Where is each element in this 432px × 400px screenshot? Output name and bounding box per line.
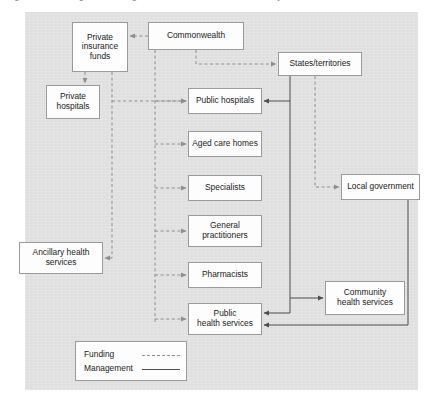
node-label: Specialists <box>202 183 248 193</box>
node-ancillary-health-services[interactable]: Ancillary health services <box>19 242 103 274</box>
node-label: Private insurance funds <box>79 33 121 62</box>
figure-caption-clipped: Figure 1: Funding and management of the … <box>0 0 432 11</box>
node-label: Public hospitals <box>193 96 257 106</box>
node-label: Public health services <box>194 309 256 328</box>
node-specialists[interactable]: Specialists <box>188 175 262 201</box>
legend-label-management: Management <box>84 363 133 373</box>
node-community-health-services[interactable]: Community health services <box>325 281 405 315</box>
node-local-government[interactable]: Local government <box>341 174 420 200</box>
node-general-practitioners[interactable]: General practitioners <box>188 215 262 247</box>
node-private-hospitals[interactable]: Private hospitals <box>46 85 100 119</box>
node-aged-care-homes[interactable]: Aged care homes <box>188 131 262 157</box>
figure-caption-text: Figure 1: Funding and management of the … <box>6 0 304 1</box>
node-pharmacists[interactable]: Pharmacists <box>188 262 262 288</box>
node-label: Ancillary health services <box>30 248 93 267</box>
legend-swatch-management-solid <box>142 369 180 370</box>
node-label: Aged care homes <box>189 139 261 149</box>
node-label: Commonwealth <box>164 31 228 41</box>
legend: Funding Management <box>75 341 187 381</box>
node-label: Local government <box>344 182 417 192</box>
node-label: Community health services <box>334 288 396 307</box>
node-label: Pharmacists <box>199 270 251 280</box>
legend-label-funding: Funding <box>84 349 114 359</box>
node-commonwealth[interactable]: Commonwealth <box>148 22 244 50</box>
node-label: States/territories <box>287 59 354 69</box>
legend-swatch-funding-dashed <box>142 355 180 356</box>
node-private-insurance-funds[interactable]: Private insurance funds <box>72 22 128 72</box>
node-states-territories[interactable]: States/territories <box>278 52 362 76</box>
node-label: Private hospitals <box>53 92 92 111</box>
node-public-health-services[interactable]: Public health services <box>188 303 262 335</box>
node-public-hospitals[interactable]: Public hospitals <box>188 88 262 114</box>
node-label: General practitioners <box>199 221 251 240</box>
